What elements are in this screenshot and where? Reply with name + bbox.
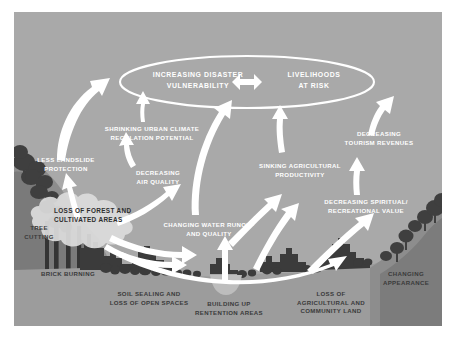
arrow-water-to-hub — [192, 100, 232, 215]
right-hillside — [370, 206, 442, 326]
image-frame: INCREASING DISASTER VULNERABILITY LIVELI… — [0, 0, 457, 344]
arrow-landslide-to-hub — [57, 78, 110, 161]
diagram-canvas — [14, 12, 442, 326]
arrow-sinking-to-hub — [272, 105, 288, 153]
diagram-panel: INCREASING DISASTER VULNERABILITY LIVELI… — [14, 12, 442, 326]
arrow-tourism-to-hub — [368, 96, 394, 136]
arrow-bidirectional-hub — [232, 74, 262, 90]
arrow-cloud-to-airquality — [116, 184, 181, 226]
arrow-airquality-to-shrinking — [119, 132, 136, 168]
arrow-spiritual-to-tourism — [349, 157, 365, 195]
